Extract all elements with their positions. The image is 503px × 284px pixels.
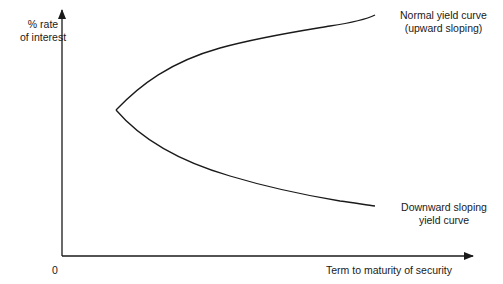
x-axis-label: Term to maturity of security	[326, 264, 452, 277]
downward-yield-curve-line	[116, 110, 375, 206]
normal-yield-curve-label-line2: (upward sloping)	[386, 22, 501, 35]
normal-yield-curve-label-line1: Normal yield curve	[386, 9, 501, 22]
normal-yield-curve-label: Normal yield curve (upward sloping)	[386, 9, 501, 35]
normal-yield-curve-line	[116, 15, 375, 110]
yield-curve-diagram	[0, 0, 503, 284]
y-axis-label: % rate of interest	[14, 18, 72, 44]
origin-label: 0	[52, 264, 58, 277]
y-axis-label-line1: % rate	[14, 18, 72, 31]
downward-yield-curve-label: Downward sloping yield curve	[388, 201, 500, 227]
y-axis-label-line2: of interest	[14, 31, 72, 44]
downward-yield-curve-label-line1: Downward sloping	[388, 201, 500, 214]
downward-yield-curve-label-line2: yield curve	[388, 214, 500, 227]
